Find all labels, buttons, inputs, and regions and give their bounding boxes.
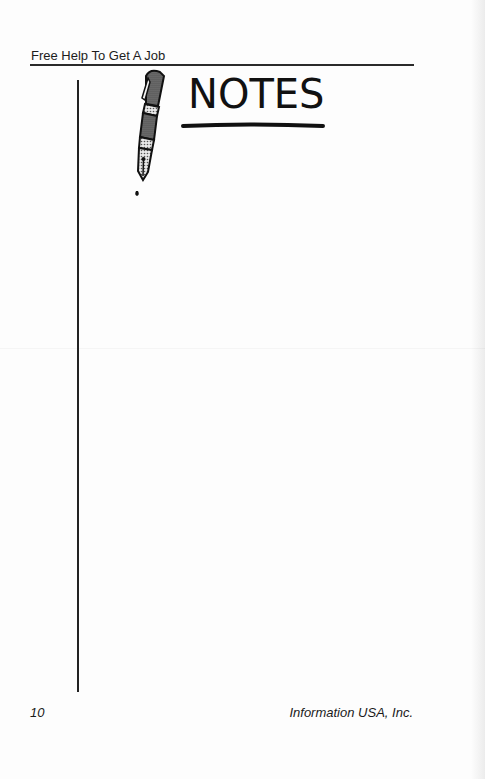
page-number: 10 — [30, 705, 44, 720]
fountain-pen-icon: NOTES — [128, 68, 348, 208]
header-rule — [30, 64, 414, 66]
svg-text:NOTES: NOTES — [188, 71, 325, 117]
margin-rule — [77, 80, 79, 692]
scan-artifact — [0, 348, 485, 349]
publisher-footer: Information USA, Inc. — [289, 705, 413, 720]
notes-graphic: NOTES — [128, 68, 348, 208]
page-edge-shadow — [471, 0, 485, 779]
running-header: Free Help To Get A Job — [31, 48, 165, 63]
